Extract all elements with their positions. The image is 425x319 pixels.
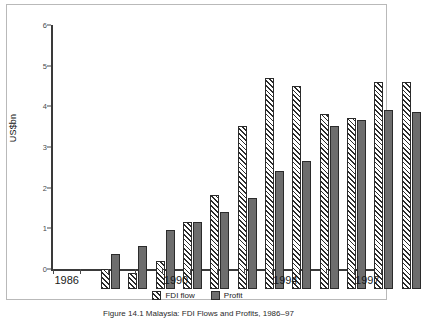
year-group-1990 bbox=[206, 45, 233, 289]
bar-fdi-flow-1992 bbox=[265, 78, 274, 289]
year-group-1993 bbox=[288, 45, 315, 289]
chart-legend: FDI flowProfit bbox=[7, 291, 388, 300]
bar-fdi-flow-1991 bbox=[238, 126, 247, 289]
legend-item-fdi-flow: FDI flow bbox=[152, 291, 194, 300]
y-tick-label-6: 6 bbox=[7, 21, 47, 30]
y-tick-label-4: 4 bbox=[7, 102, 47, 111]
year-group-1989 bbox=[179, 45, 206, 289]
bar-fdi-flow-1995 bbox=[347, 118, 356, 289]
legend-item-profit: Profit bbox=[211, 291, 243, 300]
year-group-1996 bbox=[370, 45, 397, 289]
year-group-1986 bbox=[97, 45, 124, 289]
year-group-1987 bbox=[124, 45, 151, 289]
x-axis-label-1997: 1997 bbox=[355, 274, 379, 286]
chart-frame: US$bn 0123456 1986199019941997 FDI flowP… bbox=[6, 4, 387, 300]
bar-profit-1995 bbox=[357, 120, 366, 289]
y-axis-title: US$bn bbox=[8, 114, 18, 143]
legend-swatch-icon-fdi-flow bbox=[152, 291, 161, 300]
bar-profit-1996 bbox=[384, 110, 393, 289]
year-group-1997 bbox=[398, 45, 425, 289]
legend-swatch-icon-profit bbox=[211, 291, 220, 300]
bar-series-group bbox=[97, 45, 425, 289]
bar-profit-1997 bbox=[412, 112, 421, 289]
x-axis-label-1990: 1990 bbox=[164, 274, 188, 286]
y-tick-label-1: 1 bbox=[7, 224, 47, 233]
x-axis-labels: 1986199019941997 bbox=[51, 274, 383, 290]
bar-fdi-flow-1994 bbox=[320, 114, 329, 289]
y-tick-label-3: 3 bbox=[7, 143, 47, 152]
year-group-1988 bbox=[152, 45, 179, 289]
year-group-1992 bbox=[261, 45, 288, 289]
bar-fdi-flow-1997 bbox=[402, 82, 411, 289]
plot-area bbox=[51, 25, 381, 269]
bar-fdi-flow-1993 bbox=[292, 86, 301, 289]
y-tick-label-5: 5 bbox=[7, 61, 47, 70]
bar-profit-1994 bbox=[330, 126, 339, 289]
year-group-1995 bbox=[343, 45, 370, 289]
y-tick-label-0: 0 bbox=[7, 265, 47, 274]
year-group-1991 bbox=[234, 45, 261, 289]
legend-label-fdi-flow: FDI flow bbox=[165, 291, 194, 300]
x-axis-label-1986: 1986 bbox=[54, 274, 78, 286]
bar-fdi-flow-1996 bbox=[374, 82, 383, 289]
figure-caption: Figure 14.1 Malaysia: FDI Flows and Prof… bbox=[0, 309, 397, 318]
y-tick-label-2: 2 bbox=[7, 183, 47, 192]
legend-label-profit: Profit bbox=[224, 291, 243, 300]
x-axis-label-1994: 1994 bbox=[273, 274, 297, 286]
year-group-1994 bbox=[316, 45, 343, 289]
